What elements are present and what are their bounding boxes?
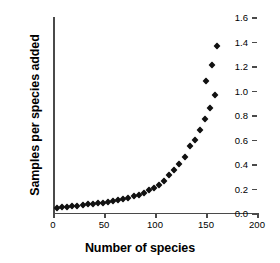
x-axis-title: Number of species — [0, 241, 280, 255]
data-point — [186, 142, 193, 149]
data-point — [202, 77, 209, 84]
x-tick — [53, 213, 55, 218]
x-tick — [206, 213, 208, 218]
x-tick — [104, 213, 106, 218]
data-point — [171, 167, 178, 174]
y-tick — [252, 91, 257, 93]
y-tick-label: 0.8 — [235, 110, 248, 121]
x-tick-label: 50 — [99, 219, 110, 230]
x-tick — [257, 213, 259, 218]
y-axis-title: Samples per species added — [28, 15, 42, 215]
plot-area: 0.00.20.40.60.81.01.21.41.6 050100150200 — [53, 17, 257, 213]
y-tick-label: 0.0 — [235, 208, 248, 219]
y-tick-label: 0.2 — [235, 183, 248, 194]
data-point — [191, 136, 198, 143]
x-tick-label: 100 — [147, 219, 163, 230]
data-point — [201, 115, 208, 122]
y-tick — [252, 164, 257, 166]
x-tick-label: 0 — [50, 219, 55, 230]
data-point — [196, 126, 203, 133]
data-point — [209, 61, 216, 68]
data-point — [161, 177, 168, 184]
y-tick — [252, 140, 257, 142]
x-tick-label: 150 — [198, 219, 214, 230]
y-tick-label: 0.6 — [235, 134, 248, 145]
data-point — [166, 171, 173, 178]
y-tick — [252, 42, 257, 44]
y-tick-label: 1.6 — [235, 12, 248, 23]
data-point — [212, 92, 219, 99]
data-point — [214, 43, 221, 50]
y-tick-label: 1.0 — [235, 85, 248, 96]
y-tick — [252, 189, 257, 191]
data-point — [207, 104, 214, 111]
chart-figure: Samples per species added Number of spec… — [0, 0, 280, 263]
x-tick — [155, 213, 157, 218]
y-tick — [252, 115, 257, 117]
data-point — [181, 153, 188, 160]
x-tick-label: 200 — [249, 219, 265, 230]
y-tick — [252, 17, 257, 19]
y-tick-label: 1.4 — [235, 36, 248, 47]
y-tick-label: 1.2 — [235, 61, 248, 72]
y-tick-label: 0.4 — [235, 159, 248, 170]
y-tick — [252, 66, 257, 68]
data-point — [176, 160, 183, 167]
